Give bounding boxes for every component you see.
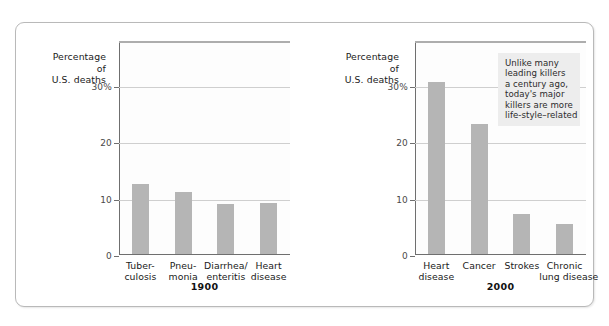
y-axis-tick-label: 10 — [100, 195, 112, 205]
y-axis-tick — [114, 200, 119, 201]
y-axis-tick-label: 0 — [106, 251, 112, 261]
y-axis-caption-line-3: U.S. deaths — [315, 74, 399, 86]
y-axis-caption-1900: Percentage of U.S. deaths — [22, 51, 106, 86]
y-axis-tick — [410, 256, 415, 257]
plot-area-1900: 0102030% — [119, 41, 290, 255]
y-axis-tick-label: 30% — [91, 82, 112, 92]
y-axis-caption-2000: Percentage of U.S. deaths — [315, 51, 399, 86]
bar — [471, 124, 488, 254]
x-axis-line — [119, 254, 290, 255]
y-axis-caption-line-2: of — [315, 63, 399, 75]
annotation-line-2: leading killers — [505, 68, 574, 78]
annotation-line-5: killers are more — [505, 100, 574, 110]
figure-card: Percentage of U.S. deaths 0102030% 1900 … — [15, 22, 594, 307]
x-axis-label-line: Chronic — [539, 260, 590, 271]
y-axis-caption-line-1: Percentage — [315, 51, 399, 63]
gridline — [119, 143, 290, 144]
x-axis-label: Chroniclung disease — [539, 260, 590, 282]
y-axis-tick-label: 20 — [100, 138, 112, 148]
y-axis-line — [119, 43, 120, 255]
bar — [556, 224, 573, 254]
annotation-line-6: life-style–related — [505, 110, 574, 120]
y-axis-tick — [114, 143, 119, 144]
chart-panel-2000: Percentage of U.S. deaths 0102030% Unlik… — [305, 23, 595, 308]
y-axis-tick-label: 10 — [396, 195, 408, 205]
y-axis-tick — [410, 200, 415, 201]
bar — [132, 184, 149, 254]
annotation-line-4: today's major — [505, 89, 574, 99]
bar — [175, 192, 192, 254]
year-label-1900: 1900 — [119, 281, 290, 292]
y-axis-tick — [410, 143, 415, 144]
year-label-2000: 2000 — [415, 281, 586, 292]
y-axis-tick — [114, 256, 119, 257]
y-axis-tick-label: 20 — [396, 138, 408, 148]
bar — [260, 203, 277, 254]
bar — [428, 82, 445, 254]
x-axis-label-line: Heart — [243, 260, 294, 271]
x-axis-line — [415, 254, 586, 255]
annotation-line-1: Unlike many — [505, 58, 574, 68]
x-axis-label: Heartdisease — [243, 260, 294, 282]
y-axis-tick — [410, 87, 415, 88]
bar — [513, 214, 530, 254]
y-axis-line — [415, 43, 416, 255]
bar — [217, 204, 234, 254]
y-axis-tick-label: 30% — [387, 82, 408, 92]
chart-annotation-callout: Unlike many leading killers a century ag… — [498, 53, 580, 126]
chart-panel-1900: Percentage of U.S. deaths 0102030% 1900 … — [16, 23, 306, 308]
gridline — [119, 87, 290, 88]
annotation-line-3: a century ago, — [505, 79, 574, 89]
y-axis-caption-line-2: of — [22, 63, 106, 75]
x-axis-label-line: disease — [243, 271, 294, 282]
x-axis-label-line: disease — [411, 271, 462, 282]
x-axis-label-line: lung disease — [539, 271, 590, 282]
y-axis-tick — [114, 87, 119, 88]
y-axis-caption-line-1: Percentage — [22, 51, 106, 63]
y-axis-tick-label: 0 — [402, 251, 408, 261]
